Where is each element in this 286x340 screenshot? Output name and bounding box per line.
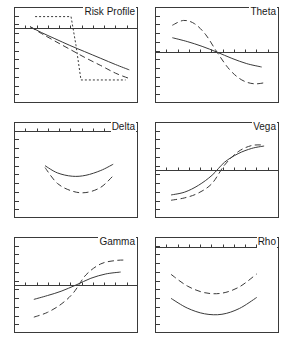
series-line-current <box>45 164 113 176</box>
panel-title-delta: Delta <box>111 121 136 133</box>
series-line-expiry <box>34 260 126 317</box>
series-line-expiry <box>171 274 257 294</box>
panel-frame <box>15 123 138 218</box>
panel-vega: Vega <box>155 122 279 218</box>
panel-theta: Theta <box>155 7 279 103</box>
plot-area-gamma <box>14 237 138 333</box>
plot-area-theta <box>155 7 279 103</box>
panel-delta: Delta <box>14 122 138 218</box>
panel-risk-profile: Risk Profile <box>14 7 138 103</box>
risk-profile-figure: Risk ProfileThetaDeltaVegaGammaRho <box>0 0 286 340</box>
panel-frame <box>156 238 279 333</box>
plot-area-vega <box>155 122 279 218</box>
panel-frame <box>156 8 279 103</box>
plot-area-risk-profile <box>14 7 138 103</box>
plot-area-delta <box>14 122 138 218</box>
panel-title-risk-profile: Risk Profile <box>83 6 136 18</box>
series-line-current <box>171 297 257 314</box>
plot-area-rho <box>155 237 279 333</box>
panel-title-theta: Theta <box>249 6 277 18</box>
panel-gamma: Gamma <box>14 237 138 333</box>
panel-rho: Rho <box>155 237 279 333</box>
series-line-current <box>30 27 129 70</box>
panel-title-rho: Rho <box>257 236 277 248</box>
panel-title-vega: Vega <box>252 121 277 133</box>
panel-title-gamma: Gamma <box>98 236 136 248</box>
panel-frame <box>15 8 138 103</box>
